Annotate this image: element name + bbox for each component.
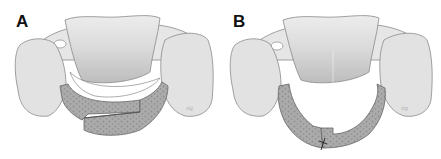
vertebra-illustration-a: sig [0,0,220,159]
panel-b: sig B [221,0,441,159]
panel-label-b: B [233,13,245,30]
artist-signature: sig [401,105,408,111]
vertebra-illustration-b: sig [221,0,441,159]
panel-label-a: A [16,13,28,30]
panel-a: sig A [0,0,220,159]
artist-signature: sig [186,105,193,111]
